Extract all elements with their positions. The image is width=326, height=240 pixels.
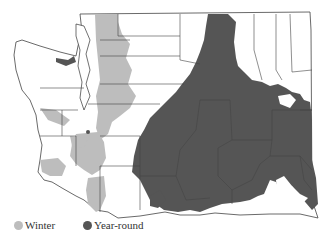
washington-map: Winter Year-round	[0, 0, 326, 240]
legend-label-winter: Winter	[25, 219, 55, 231]
legend: Winter Year-round	[14, 217, 172, 233]
legend-label-year-round: Year-round	[94, 219, 143, 231]
map-graphic	[0, 0, 326, 240]
legend-item-winter: Winter	[14, 219, 55, 231]
year-round-swatch-icon	[83, 221, 92, 230]
legend-item-year-round: Year-round	[83, 219, 143, 231]
puget-marker	[86, 130, 90, 134]
winter-swatch-icon	[14, 221, 23, 230]
